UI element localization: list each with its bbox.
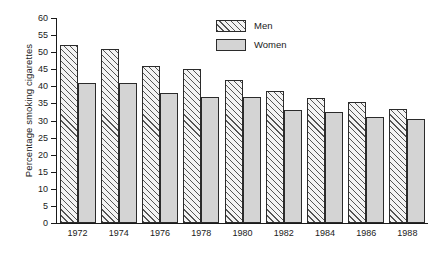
bar-group xyxy=(389,18,425,223)
y-tick-mark xyxy=(51,52,56,53)
x-tick-label: 1984 xyxy=(315,228,335,238)
y-tick-mark xyxy=(51,155,56,156)
y-tick-mark xyxy=(51,18,56,19)
bar-women-1988 xyxy=(407,119,425,223)
bar-men-1976 xyxy=(142,66,160,223)
y-tick-mark xyxy=(51,69,56,70)
x-tick-label: 1982 xyxy=(274,228,294,238)
y-tick-label: 40 xyxy=(38,82,48,91)
y-tick-label: 15 xyxy=(38,167,48,176)
bar-group xyxy=(307,18,343,223)
bar-women-1980 xyxy=(243,97,261,223)
bar-men-1972 xyxy=(60,45,78,223)
bar-men-1982 xyxy=(266,91,284,223)
bar-men-1974 xyxy=(101,49,119,223)
y-tick-label: 60 xyxy=(38,14,48,23)
x-tick-label: 1974 xyxy=(109,228,129,238)
y-tick-label: 45 xyxy=(38,65,48,74)
y-axis-title: Percentage smoking cigarettes xyxy=(23,21,34,201)
y-tick-mark xyxy=(51,223,56,224)
bar-women-1972 xyxy=(78,83,96,223)
bar-men-1984 xyxy=(307,98,325,223)
y-tick-mark xyxy=(51,172,56,173)
y-tick-label: 0 xyxy=(43,219,48,228)
y-tick-mark xyxy=(51,86,56,87)
y-tick-mark xyxy=(51,35,56,36)
bar-men-1978 xyxy=(183,69,201,223)
y-tick-label: 50 xyxy=(38,48,48,57)
bar-group xyxy=(142,18,178,223)
y-tick-mark xyxy=(51,138,56,139)
x-tick-label: 1988 xyxy=(397,228,417,238)
y-tick-label: 20 xyxy=(38,150,48,159)
bar-men-1980 xyxy=(225,80,243,224)
legend-label-women: Women xyxy=(254,39,287,50)
y-tick-label: 35 xyxy=(38,99,48,108)
bar-group xyxy=(183,18,219,223)
bar-group xyxy=(101,18,137,223)
bar-women-1982 xyxy=(284,110,302,223)
x-tick-label: 1972 xyxy=(68,228,88,238)
legend-swatch-men xyxy=(216,20,246,32)
legend-item-women: Women xyxy=(216,37,308,52)
y-tick-label: 30 xyxy=(38,116,48,125)
y-tick-label: 10 xyxy=(38,184,48,193)
x-axis-line xyxy=(56,223,428,224)
legend-swatch-women xyxy=(216,39,246,51)
bar-group xyxy=(60,18,96,223)
y-tick-mark xyxy=(51,189,56,190)
y-tick-label: 55 xyxy=(38,31,48,40)
bar-men-1988 xyxy=(389,109,407,223)
bar-women-1984 xyxy=(325,112,343,223)
x-tick-label: 1978 xyxy=(191,228,211,238)
y-tick-mark xyxy=(51,206,56,207)
x-tick-label: 1986 xyxy=(356,228,376,238)
x-tick-label: 1976 xyxy=(150,228,170,238)
y-tick-mark xyxy=(51,121,56,122)
bar-women-1974 xyxy=(119,83,137,223)
y-tick-label: 5 xyxy=(43,201,48,210)
chart-legend: Men Women xyxy=(216,18,308,56)
bar-women-1976 xyxy=(160,93,178,223)
bar-group xyxy=(348,18,384,223)
bar-women-1986 xyxy=(366,117,384,223)
x-tick-label: 1980 xyxy=(232,228,252,238)
bar-women-1978 xyxy=(201,97,219,223)
chart-figure: Percentage smoking cigarettes 0510152025… xyxy=(0,0,439,267)
y-tick-label: 25 xyxy=(38,133,48,142)
legend-item-men: Men xyxy=(216,18,308,33)
y-tick-mark xyxy=(51,103,56,104)
legend-label-men: Men xyxy=(254,20,272,31)
bar-men-1986 xyxy=(348,102,366,223)
